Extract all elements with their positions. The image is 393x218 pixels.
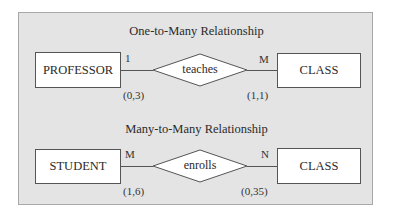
relationship-label: teaches [153,62,247,77]
participation-label: (1,1) [247,89,268,101]
entity-student: STUDENT [35,149,121,184]
relationship-label: enrolls [153,158,247,173]
entity-label: STUDENT [50,159,107,174]
entity-professor: PROFESSOR [35,52,121,88]
connector-line [121,70,153,71]
cardinality-label: M [125,148,135,160]
cardinality-label: 1 [125,52,131,64]
entity-class: CLASS [277,53,361,88]
cardinality-label: M [259,53,269,65]
er-diagram-panel: One-to-Many Relationship PROFESSOR teach… [18,12,373,205]
section-title-one-to-many: One-to-Many Relationship [19,24,374,39]
cardinality-label: N [261,148,269,160]
connector-line [247,166,277,167]
entity-label: CLASS [300,63,339,78]
entity-class: CLASS [277,148,361,184]
participation-label: (0,3) [123,89,144,101]
connector-line [121,166,153,167]
section-title-many-to-many: Many-to-Many Relationship [19,122,374,137]
participation-label: (1,6) [123,185,144,197]
participation-label: (0,35) [241,185,268,197]
entity-label: PROFESSOR [43,63,113,78]
entity-label: CLASS [300,159,339,174]
connector-line [247,70,277,71]
